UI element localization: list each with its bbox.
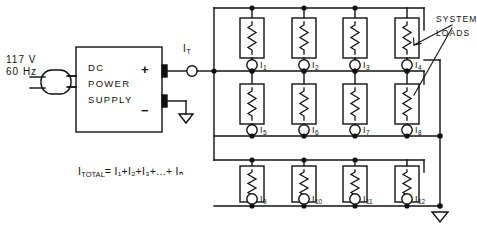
mains-frequency-label: 60 Hz [6, 66, 37, 78]
meter-subscript: 10 [315, 198, 322, 205]
meter-label-i4: I4 [415, 60, 422, 71]
meter-subscript: 3 [366, 64, 370, 71]
meter-subscript: 7 [366, 129, 370, 136]
meter-label-i5: I5 [260, 125, 267, 136]
mains-voltage-label: 117 V [6, 54, 36, 66]
meter-subscript: 1 [263, 64, 267, 71]
meter-label-i12: I12 [415, 194, 425, 205]
psu-label-line2: POWER [88, 78, 130, 90]
meter-subscript: 4 [418, 64, 422, 71]
meter-subscript: 2 [315, 64, 319, 71]
meter-label-i9: I9 [260, 194, 267, 205]
negative-terminal [162, 95, 186, 114]
psu-label-line3: SUPPLY [88, 94, 133, 106]
total-current-label: IT [183, 43, 191, 56]
meter-subscript: 5 [263, 129, 267, 136]
meter-label-i11: I11 [363, 194, 373, 205]
meter-subscript: 8 [418, 129, 422, 136]
system-loads-label-line1: SYSTEM [436, 14, 477, 26]
positive-terminal [162, 65, 186, 77]
system-loads-label-line2: LOADS [436, 28, 470, 40]
total-current-formula: ITOTAL= I₁+I₂+I₃+...+ Iₙ [78, 165, 183, 179]
psu-label-line1: DC [88, 62, 104, 74]
meter-label-i10: I10 [312, 194, 322, 205]
ammeter-total [187, 66, 214, 76]
ground-icon [179, 114, 193, 123]
circuit-diagram [0, 0, 477, 238]
meter-label-i7: I7 [363, 125, 370, 136]
junction-dot [437, 203, 443, 209]
meter-label-i8: I8 [415, 125, 422, 136]
meter-label-i3: I3 [363, 60, 370, 71]
positive-terminal-label: + [141, 63, 149, 76]
junction-dot [437, 133, 443, 139]
meter-subscript: 6 [315, 129, 319, 136]
meter-subscript: 9 [263, 198, 267, 205]
ground-icon [432, 212, 448, 222]
meter-subscript: 11 [366, 198, 373, 205]
meter-subscript: 12 [418, 198, 425, 205]
negative-terminal-label: − [141, 104, 149, 117]
meter-label-i1: I1 [260, 60, 267, 71]
meter-label-i6: I6 [312, 125, 319, 136]
meter-label-i2: I2 [312, 60, 319, 71]
